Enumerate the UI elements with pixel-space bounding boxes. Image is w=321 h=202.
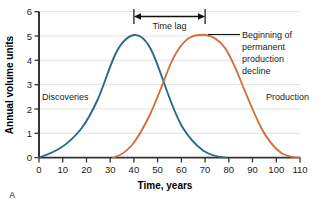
x-tick-label-50: 50	[152, 164, 163, 175]
x-tick-label-100: 100	[268, 164, 284, 175]
beginning-decline-line-1: Beginning of	[242, 30, 293, 40]
y-tick-label-0: 0	[27, 152, 32, 163]
x-tick-label-80: 80	[224, 164, 235, 175]
x-tick-label-30: 30	[105, 164, 116, 175]
x-tick-label-0: 0	[36, 164, 41, 175]
x-axis-title: Time, years	[138, 180, 193, 191]
y-tick-label-4: 4	[27, 55, 32, 66]
figure-panel: 6 5 4 3 2 1 0 0 10 20 30	[0, 0, 321, 202]
oil-discovery-production-chart: 6 5 4 3 2 1 0 0 10 20 30	[0, 0, 321, 202]
y-tick-label-3: 3	[27, 79, 32, 90]
y-axis-title: Annual volume units	[4, 35, 15, 134]
beginning-decline-line-2: permanent	[242, 42, 286, 52]
x-tick-label-90: 90	[247, 164, 258, 175]
discoveries-label: Discoveries	[42, 92, 89, 102]
x-tick-label-110: 110	[292, 164, 307, 175]
time-lag-label: Time lag	[152, 21, 186, 31]
figure-letter-label: A	[9, 190, 16, 200]
y-tick-label-2: 2	[27, 104, 32, 115]
x-tick-label-60: 60	[176, 164, 187, 175]
beginning-decline-line-4: decline	[242, 66, 271, 76]
x-tick-label-10: 10	[57, 164, 68, 175]
x-tick-label-40: 40	[129, 164, 140, 175]
y-tick-label-5: 5	[27, 31, 32, 42]
x-tick-label-70: 70	[200, 164, 211, 175]
production-label: Production	[266, 92, 309, 102]
y-tick-label-1: 1	[27, 128, 32, 139]
y-tick-label-6: 6	[27, 6, 32, 17]
production-label-group: Production	[265, 90, 319, 102]
beginning-decline-line-3: production	[242, 54, 284, 64]
discoveries-label-group: Discoveries	[41, 90, 95, 102]
x-tick-label-20: 20	[81, 164, 92, 175]
